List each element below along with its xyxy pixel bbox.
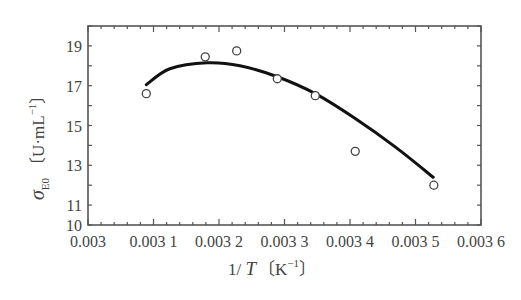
x-tick-label: 0.003 2 — [195, 233, 243, 250]
fit-line — [146, 63, 433, 178]
plot-frame — [88, 26, 481, 225]
x-axis-title: 1/ T〔K−1〕 — [228, 257, 316, 279]
x-tick-label: 0.003 1 — [130, 233, 178, 250]
y-tick-label: 17 — [66, 78, 82, 95]
y-tick-label: 10 — [66, 217, 82, 234]
data-point — [142, 90, 150, 98]
y-axis-title: σE0〔U·mL−1〕 — [26, 87, 51, 200]
fitted-curve — [146, 63, 433, 178]
x-axis-ticks: 0.0030.003 10.003 20.003 30.003 40.003 5… — [70, 26, 505, 250]
data-point — [351, 147, 359, 155]
data-point — [273, 75, 281, 83]
chart: 0.0030.003 10.003 20.003 30.003 40.003 5… — [0, 0, 521, 300]
y-tick-label: 11 — [67, 197, 82, 214]
x-tick-label: 0.003 5 — [392, 233, 440, 250]
y-tick-label: 19 — [66, 38, 82, 55]
plot-border — [88, 26, 481, 225]
data-point — [311, 92, 319, 100]
x-tick-label: 0.003 6 — [457, 233, 505, 250]
y-tick-label: 15 — [66, 118, 82, 135]
data-point — [201, 53, 209, 61]
x-tick-label: 0.003 — [70, 233, 106, 250]
data-point — [430, 181, 438, 189]
y-axis-ticks: 101113151719 — [66, 26, 481, 234]
x-tick-label: 0.003 4 — [326, 233, 374, 250]
x-tick-label: 0.003 3 — [261, 233, 309, 250]
y-tick-label: 13 — [66, 157, 82, 174]
data-point — [233, 47, 241, 55]
data-points — [142, 47, 438, 189]
